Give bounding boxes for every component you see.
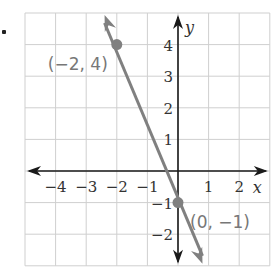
graph-figure: xy −4−3−2−1124321−1−2 (−2, 4)(0, −1) xyxy=(0,0,271,271)
point-label: (−2, 4) xyxy=(48,54,108,74)
x-tick-label: 1 xyxy=(204,178,214,196)
x-tick-label: −2 xyxy=(106,178,128,196)
y-tick-label: 2 xyxy=(163,100,173,118)
x-tick-label: −3 xyxy=(75,178,97,196)
x-axis-label: x xyxy=(253,178,262,197)
y-tick-label: −2 xyxy=(151,226,173,244)
y-tick-label: 1 xyxy=(163,131,173,149)
y-axis-label: y xyxy=(184,18,195,37)
y-tick-label: 3 xyxy=(163,68,173,86)
x-tick-label: −4 xyxy=(45,178,67,196)
data-point xyxy=(111,39,122,50)
data-point xyxy=(173,197,184,208)
x-tick-label: 2 xyxy=(234,178,244,196)
point-label: (0, −1) xyxy=(190,212,250,232)
coordinate-plane: xy −4−3−2−1124321−1−2 (−2, 4)(0, −1) xyxy=(0,0,271,271)
bullet-marker xyxy=(2,30,6,34)
y-tick-label: −1 xyxy=(151,195,173,213)
y-tick-label: 4 xyxy=(163,37,173,55)
x-tick-label: −1 xyxy=(136,178,158,196)
